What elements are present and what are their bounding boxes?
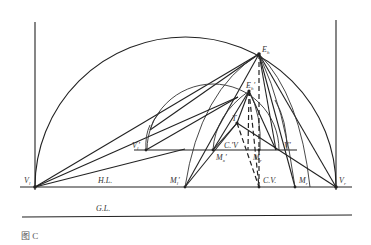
figure-caption: 图 C [21,231,38,241]
label-mr: Mr [298,176,308,186]
label-cv-prime: C.′V [224,141,239,150]
line-t-vr [237,123,336,187]
large-semicircle [35,37,336,187]
label-cv: C.V. [263,176,276,185]
perspective-construction-diagram: Eh Eh′ T Vl′ C.′V V′ Mx′ Mr Vl H.L. Ml′ … [0,0,371,245]
label-hl: H.L. [97,176,112,185]
point-m-center [258,149,261,152]
point-mr [294,186,297,189]
point-mx-prime [212,149,215,152]
label-vl-prime: Vl′ [132,141,140,151]
dashed-ehp-vertical [248,91,249,150]
point-vl-prime [145,149,148,152]
line-t-ml [185,123,237,187]
line-eh-ml [185,54,259,187]
line-eh-vl [35,54,259,187]
line-eh-mr [259,54,295,187]
small-arc-vl [150,112,160,130]
label-eh-prime: Eh′ [245,81,255,91]
label-m-center: Mr [252,153,262,163]
medium-semicircle [147,84,279,150]
point-cv [258,186,261,189]
label-t: T [232,114,237,123]
label-eh: Eh [261,45,270,55]
label-vl: Vl [24,176,31,186]
label-vr: Vr [339,176,346,186]
point-eh [257,52,261,56]
point-vl [33,185,37,189]
point-ml-prime [184,186,187,189]
label-gl: G.L. [96,204,110,213]
label-vr-prime: V′ [284,141,291,150]
ground-line [22,215,352,217]
label-ml-prime: Ml′ [169,176,180,186]
label-mx-prime: Mx′ [215,153,227,163]
point-vr [334,185,338,189]
